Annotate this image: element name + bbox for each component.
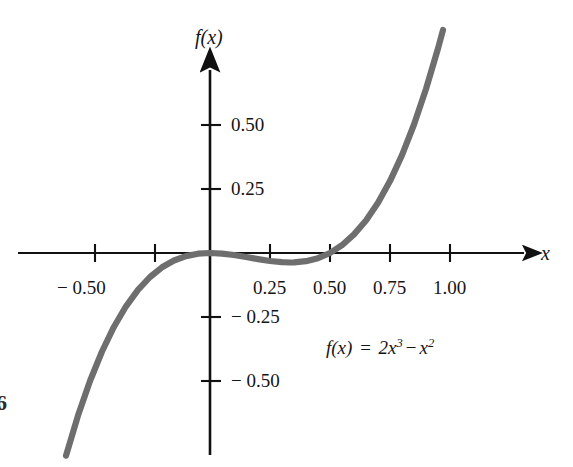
x-tick-label-0.25: 0.25 (253, 278, 286, 297)
equation-equals: = (357, 337, 374, 358)
figure-container: 0.50 0.25 − 0.25 − 0.50 − 0.50 0.25 0.50… (0, 0, 573, 467)
equation-annotation: f(x) = 2x3−x2 (326, 337, 434, 357)
y-tick-label-0.50: 0.50 (231, 115, 264, 134)
y-tick-label-0.25: 0.25 (231, 179, 264, 198)
equation-term1: 2x (379, 337, 397, 358)
equation-term2: x (420, 337, 428, 358)
x-tick-label-0.75: 0.75 (373, 278, 406, 297)
equation-term2-exponent: 2 (428, 336, 434, 350)
equation-lhs: f(x) (326, 337, 352, 358)
plot-canvas (0, 0, 573, 467)
x-tick-label--0.50: − 0.50 (57, 278, 106, 297)
page-number: 6 (0, 392, 7, 414)
equation-minus: − (403, 337, 420, 358)
x-tick-label-0.50: 0.50 (313, 278, 346, 297)
y-axis-title: f(x) (195, 27, 223, 47)
y-tick-label--0.50: − 0.50 (231, 371, 280, 390)
y-tick-label--0.25: − 0.25 (231, 307, 280, 326)
equation-term1-exponent: 3 (397, 336, 403, 350)
x-tick-label-1.00: 1.00 (433, 278, 466, 297)
x-axis-title: x (541, 243, 550, 263)
curve-f-of-x (66, 30, 443, 456)
